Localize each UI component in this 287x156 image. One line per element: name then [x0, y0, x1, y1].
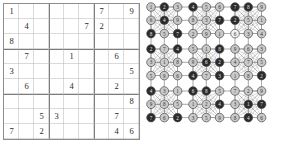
sudoku-cell-given[interactable]: 8: [124, 94, 139, 109]
sudoku-cell-empty[interactable]: [64, 94, 79, 109]
sudoku-cell-empty[interactable]: [124, 19, 139, 34]
sudoku-cell-given[interactable]: 8: [4, 34, 19, 49]
sudoku-cell-empty[interactable]: [19, 64, 34, 79]
sudoku-cell-given[interactable]: 2: [34, 124, 49, 139]
sudoku-cell-given[interactable]: 6: [19, 79, 34, 94]
sudoku-cell-given[interactable]: 4: [109, 124, 124, 139]
sudoku-cell-empty[interactable]: [4, 109, 19, 124]
sudoku-cell-given[interactable]: 3: [4, 64, 19, 79]
sudoku-cell-empty[interactable]: [79, 94, 94, 109]
sudoku-cell-empty[interactable]: [64, 4, 79, 19]
sudoku-cell-empty[interactable]: [4, 79, 19, 94]
sudoku-cell-empty[interactable]: [124, 109, 139, 124]
sudoku-cell-given[interactable]: 7: [109, 109, 124, 124]
sudoku-grid[interactable]: 17947287163564285377246: [3, 3, 140, 140]
sudoku-cell-empty[interactable]: [79, 49, 94, 64]
sudoku-cell-empty[interactable]: [94, 79, 109, 94]
graph-node-label: 4: [150, 88, 153, 94]
sudoku-cell-given[interactable]: 9: [124, 4, 139, 19]
graph-node-label: 9: [260, 4, 263, 10]
sudoku-cell-given[interactable]: 1: [64, 49, 79, 64]
sudoku-cell-empty[interactable]: [49, 34, 64, 49]
graph-node-label: 6: [163, 115, 166, 121]
sudoku-cell-given[interactable]: 6: [124, 124, 139, 139]
sudoku-cell-given[interactable]: 6: [109, 49, 124, 64]
sudoku-cell-empty[interactable]: [64, 64, 79, 79]
graph-node-label: 5: [176, 101, 179, 107]
sudoku-cell-empty[interactable]: [94, 64, 109, 79]
sudoku-cell-empty[interactable]: [79, 34, 94, 49]
sudoku-cell-empty[interactable]: [49, 94, 64, 109]
graph-node-label: 1: [205, 46, 208, 52]
sudoku-cell-given[interactable]: 1: [4, 4, 19, 19]
sudoku-cell-empty[interactable]: [109, 19, 124, 34]
sudoku-cell-empty[interactable]: [19, 109, 34, 124]
sudoku-cell-value: 4: [114, 127, 118, 136]
sudoku-cell-empty[interactable]: [19, 124, 34, 139]
sudoku-cell-empty[interactable]: [34, 79, 49, 94]
sudoku-cell-given[interactable]: 7: [19, 49, 34, 64]
sudoku-cell-empty[interactable]: [94, 124, 109, 139]
sudoku-cell-empty[interactable]: [34, 19, 49, 34]
sudoku-cell-empty[interactable]: [79, 4, 94, 19]
sudoku-cell-empty[interactable]: [109, 4, 124, 19]
sudoku-cell-given[interactable]: 3: [49, 109, 64, 124]
sudoku-cell-empty[interactable]: [19, 94, 34, 109]
sudoku-cell-empty[interactable]: [19, 34, 34, 49]
graph-node-label: 2: [260, 73, 263, 79]
sudoku-cell-empty[interactable]: [34, 49, 49, 64]
graph-node-label: 4: [234, 59, 237, 65]
sudoku-cell-empty[interactable]: [79, 64, 94, 79]
sudoku-cell-empty[interactable]: [34, 4, 49, 19]
sudoku-cell-empty[interactable]: [64, 109, 79, 124]
sudoku-cell-given[interactable]: 2: [109, 79, 124, 94]
sudoku-cell-empty[interactable]: [124, 79, 139, 94]
sudoku-cell-empty[interactable]: [94, 49, 109, 64]
sudoku-cell-value: 4: [69, 82, 73, 91]
sudoku-cell-empty[interactable]: [34, 94, 49, 109]
sudoku-cell-empty[interactable]: [49, 49, 64, 64]
sudoku-cell-empty[interactable]: [79, 124, 94, 139]
sudoku-cell-given[interactable]: 4: [64, 79, 79, 94]
sudoku-cell-empty[interactable]: [109, 94, 124, 109]
sudoku-cell-given[interactable]: 7: [94, 4, 109, 19]
sudoku-cell-empty[interactable]: [64, 124, 79, 139]
sudoku-cell-empty[interactable]: [109, 34, 124, 49]
sudoku-cell-empty[interactable]: [49, 4, 64, 19]
sudoku-cell-given[interactable]: 7: [4, 124, 19, 139]
sudoku-cell-empty[interactable]: [79, 109, 94, 124]
graph-node-label: 1: [163, 59, 166, 65]
sudoku-cell-empty[interactable]: [19, 4, 34, 19]
sudoku-cell-given[interactable]: 5: [34, 109, 49, 124]
sudoku-cell-empty[interactable]: [4, 49, 19, 64]
sudoku-cell-empty[interactable]: [124, 34, 139, 49]
graph-node-label: 6: [218, 4, 221, 10]
graph-node-label: 8: [163, 101, 166, 107]
sudoku-cell-given[interactable]: 7: [79, 19, 94, 34]
sudoku-cell-value: 2: [99, 22, 103, 31]
sudoku-cell-empty[interactable]: [94, 34, 109, 49]
sudoku-cell-empty[interactable]: [4, 94, 19, 109]
sudoku-cell-given[interactable]: 5: [124, 64, 139, 79]
sudoku-cell-empty[interactable]: [49, 64, 64, 79]
sudoku-cell-empty[interactable]: [34, 64, 49, 79]
sudoku-cell-empty[interactable]: [124, 49, 139, 64]
sudoku-cell-empty[interactable]: [109, 64, 124, 79]
sudoku-cell-empty[interactable]: [64, 19, 79, 34]
graph-node-label: 3: [176, 4, 179, 10]
sudoku-cell-empty[interactable]: [49, 124, 64, 139]
sudoku-cell-given[interactable]: 4: [19, 19, 34, 34]
sudoku-cell-empty[interactable]: [4, 19, 19, 34]
graph-node-label: 4: [192, 73, 195, 79]
sudoku-cell-empty[interactable]: [34, 34, 49, 49]
sudoku-cell-empty[interactable]: [79, 79, 94, 94]
graph-node-label: 8: [192, 17, 195, 23]
sudoku-cell-empty[interactable]: [94, 94, 109, 109]
sudoku-cell-empty[interactable]: [49, 19, 64, 34]
sudoku-cell-empty[interactable]: [94, 109, 109, 124]
sudoku-cell-empty[interactable]: [64, 34, 79, 49]
graph-node-label: 3: [247, 31, 250, 37]
sudoku-cell-given[interactable]: 2: [94, 19, 109, 34]
sudoku-cell-empty[interactable]: [49, 79, 64, 94]
graph-node-label: 4: [192, 4, 195, 10]
